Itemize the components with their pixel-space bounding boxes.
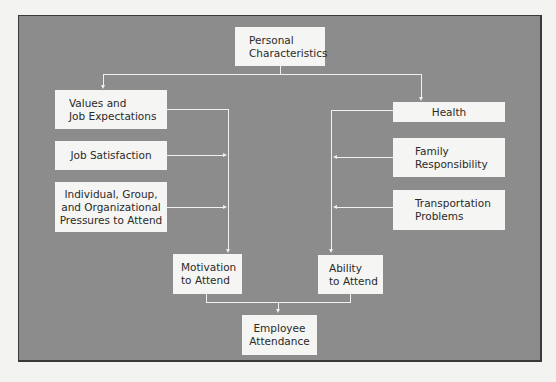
arrow-left-icon bbox=[333, 205, 337, 209]
connector-line bbox=[228, 109, 229, 249]
node-employee-attendance: Employee Attendance bbox=[242, 315, 317, 355]
connector-line bbox=[336, 207, 393, 208]
node-label: Transportation bbox=[415, 197, 505, 210]
node-health: Health bbox=[393, 102, 505, 122]
node-values-job-expectations: Values and Job Expectations bbox=[55, 90, 167, 129]
connector-line bbox=[350, 294, 351, 302]
arrow-down-icon bbox=[226, 249, 230, 253]
node-label: Job Satisfaction bbox=[70, 149, 151, 162]
connector-line bbox=[167, 109, 229, 110]
node-pressures-to-attend: Individual, Group, and Organizational Pr… bbox=[55, 182, 167, 232]
connector-line bbox=[421, 74, 422, 98]
connector-line bbox=[331, 110, 393, 111]
connector-line bbox=[331, 110, 332, 249]
node-label: Employee bbox=[253, 322, 305, 335]
connector-line bbox=[103, 74, 422, 75]
node-label: to Attend bbox=[329, 275, 383, 288]
node-ability-to-attend: Ability to Attend bbox=[318, 255, 383, 294]
node-label: Family bbox=[415, 145, 505, 158]
node-label: and Organizational bbox=[61, 201, 161, 214]
connector-line bbox=[206, 294, 207, 302]
node-label: to Attend bbox=[181, 274, 242, 287]
arrow-down-icon bbox=[419, 97, 423, 101]
node-label: Responsibility bbox=[415, 158, 505, 171]
node-label: Values and bbox=[69, 97, 167, 110]
node-transportation-problems: Transportation Problems bbox=[393, 190, 505, 230]
node-label: Attendance bbox=[249, 335, 309, 348]
node-label: Motivation bbox=[181, 261, 242, 274]
arrow-down-icon bbox=[329, 249, 333, 253]
connector-line bbox=[167, 207, 225, 208]
node-label: Problems bbox=[415, 210, 505, 223]
arrow-right-icon bbox=[223, 205, 227, 209]
arrow-down-icon bbox=[101, 85, 105, 89]
node-family-responsibility: Family Responsibility bbox=[393, 138, 505, 177]
node-job-satisfaction: Job Satisfaction bbox=[55, 141, 167, 170]
node-label: Pressures to Attend bbox=[60, 214, 163, 227]
node-label: Health bbox=[432, 106, 466, 119]
arrow-right-icon bbox=[223, 153, 227, 157]
arrow-down-icon bbox=[276, 309, 280, 313]
node-motivation-to-attend: Motivation to Attend bbox=[173, 254, 242, 294]
node-label: Job Expectations bbox=[69, 110, 167, 123]
connector-line bbox=[280, 66, 281, 74]
node-label: Characteristics bbox=[249, 47, 325, 60]
node-personal-characteristics: Personal Characteristics bbox=[235, 27, 325, 66]
node-label: Personal bbox=[249, 34, 325, 47]
connector-line bbox=[167, 155, 225, 156]
node-label: Ability bbox=[329, 262, 383, 275]
arrow-left-icon bbox=[333, 155, 337, 159]
connector-line bbox=[336, 157, 393, 158]
node-label: Individual, Group, bbox=[64, 188, 157, 201]
